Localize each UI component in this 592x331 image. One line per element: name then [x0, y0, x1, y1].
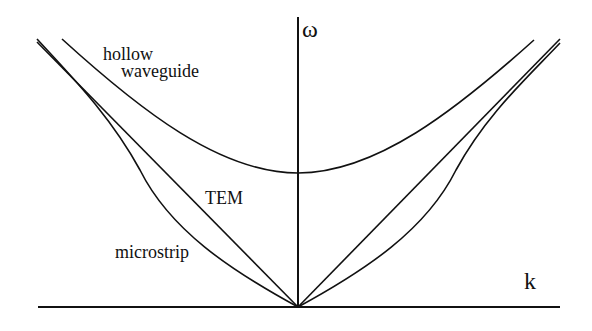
- k-label: k: [524, 268, 536, 294]
- dispersion-diagram: ω k hollow waveguide TEM microstrip: [0, 0, 592, 331]
- microstrip-label: microstrip: [115, 242, 189, 262]
- waveguide-label: waveguide: [121, 61, 199, 81]
- tem-label: TEM: [205, 188, 243, 208]
- tem-line-right: [298, 39, 560, 307]
- omega-label: ω: [302, 16, 318, 42]
